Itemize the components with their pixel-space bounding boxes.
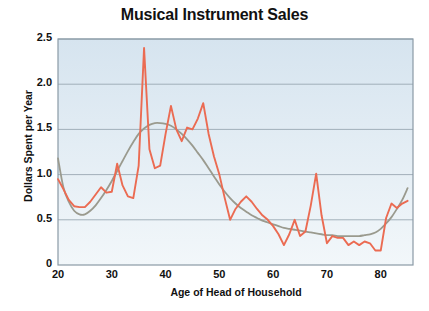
plot-background xyxy=(58,39,413,265)
chart-figure: Musical Instrument Sales Dollars Spent p… xyxy=(0,0,429,311)
plot-area xyxy=(0,0,429,311)
